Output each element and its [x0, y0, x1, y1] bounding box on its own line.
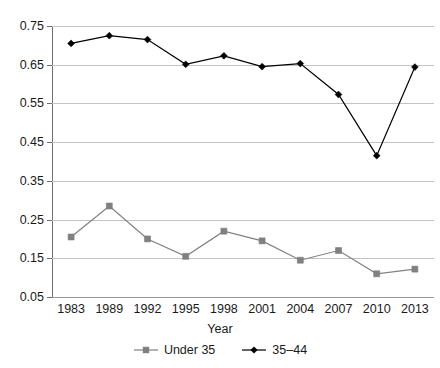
y-axis-tick-label: 0.65	[20, 58, 44, 72]
data-point-marker	[412, 266, 418, 272]
data-point-marker	[259, 238, 265, 244]
gridline	[52, 297, 434, 298]
series-layer	[52, 26, 434, 297]
y-tick-mark	[47, 297, 52, 298]
x-axis-title: Year	[0, 322, 440, 336]
legend-marker-icon	[133, 344, 159, 356]
series-line	[71, 36, 415, 156]
x-axis-tick-label: 1989	[95, 302, 123, 316]
y-axis-tick-label: 0.75	[20, 19, 44, 33]
data-point-marker	[221, 52, 228, 59]
series-under-35	[68, 203, 418, 277]
y-axis-tick-label: 0.35	[20, 174, 44, 188]
data-point-marker	[106, 32, 113, 39]
y-axis-tick-label: 0.05	[20, 290, 44, 304]
data-point-marker	[373, 152, 380, 159]
x-axis-tick-label: 2010	[363, 302, 391, 316]
data-point-marker	[68, 40, 75, 47]
line-chart: 0.050.150.250.350.450.550.650.75 1983198…	[0, 0, 440, 368]
legend-item[interactable]: 35–44	[241, 343, 307, 357]
data-point-marker	[297, 257, 303, 263]
x-axis-tick-label: 1998	[210, 302, 238, 316]
data-point-marker	[259, 63, 266, 70]
data-point-marker	[221, 228, 227, 234]
data-point-marker	[183, 253, 189, 259]
x-axis-tick-label: 1992	[134, 302, 162, 316]
x-axis-tick-label: 2001	[248, 302, 276, 316]
y-axis-tick-label: 0.45	[20, 135, 44, 149]
legend-label: Under 35	[164, 343, 215, 357]
legend-label: 35–44	[272, 343, 307, 357]
x-axis-tick-labels: 1983198919921995199820012004200720102013	[52, 302, 434, 320]
data-point-marker	[144, 36, 151, 43]
data-point-marker	[374, 271, 380, 277]
legend-item[interactable]: Under 35	[133, 343, 215, 357]
x-axis-tick-label: 2007	[325, 302, 353, 316]
y-axis-tick-label: 0.55	[20, 96, 44, 110]
data-point-marker	[145, 236, 151, 242]
plot-area: 0.050.150.250.350.450.550.650.75	[52, 26, 434, 297]
data-point-marker	[106, 203, 112, 209]
data-point-marker	[412, 64, 419, 71]
data-point-marker	[336, 248, 342, 254]
x-axis-tick-label: 2004	[286, 302, 314, 316]
x-axis-tick-label: 1983	[57, 302, 85, 316]
x-axis-tick-label: 2013	[401, 302, 429, 316]
data-point-marker	[182, 61, 189, 68]
series-line	[71, 206, 415, 274]
y-axis-tick-label: 0.25	[20, 213, 44, 227]
y-axis-tick-label: 0.15	[20, 251, 44, 265]
x-axis-tick-label: 1995	[172, 302, 200, 316]
series-35-44	[68, 32, 419, 159]
data-point-marker	[68, 234, 74, 240]
legend-marker-icon	[241, 344, 267, 356]
chart-legend: Under 3535–44	[0, 343, 440, 357]
